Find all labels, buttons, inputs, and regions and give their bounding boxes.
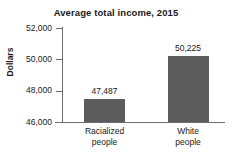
bar (168, 56, 209, 122)
bar-value-label: 50,225 (158, 43, 218, 53)
x-axis-line (55, 122, 225, 123)
y-tick-mark (56, 122, 62, 123)
bar-chart: Average total income, 2015 Dollars 46,00… (0, 0, 232, 158)
chart-title: Average total income, 2015 (0, 7, 232, 18)
y-tick-label: 52,000 (6, 23, 52, 33)
x-category-label: White people (148, 126, 228, 147)
y-tick-label: 48,000 (6, 85, 52, 95)
y-tick-label: 46,000 (6, 117, 52, 127)
x-category-label: Racialized people (65, 126, 145, 147)
bar (84, 99, 125, 122)
y-tick-label: 50,000 (6, 54, 52, 64)
bar-value-label: 47,487 (75, 86, 135, 96)
